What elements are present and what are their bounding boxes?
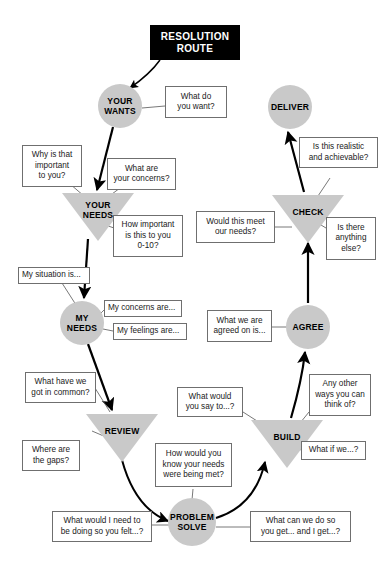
node-review-label: REVIEW: [86, 426, 158, 436]
callout-what-agreed-on[interactable]: What we are agreed on is...: [207, 310, 272, 342]
node-problem-solve[interactable]: PROBLEM SOLVE: [168, 498, 216, 546]
node-check-label: CHECK: [272, 207, 344, 217]
diagram-canvas: RESOLUTION ROUTE YOUR WANTS YOUR NEEDS M…: [0, 0, 390, 568]
node-my-needs[interactable]: MY NEEDS: [60, 301, 104, 345]
callout-any-other-ways[interactable]: Any other ways you can think of?: [309, 374, 371, 416]
callout-my-situation[interactable]: My situation is...: [18, 267, 90, 284]
node-agree-label: AGREE: [292, 322, 323, 332]
callout-realistic-achievable[interactable]: Is this realistic and achievable?: [299, 137, 378, 168]
callout-would-this-meet[interactable]: Would this meet our needs?: [196, 211, 275, 243]
node-deliver[interactable]: DELIVER: [268, 85, 312, 129]
node-deliver-label: DELIVER: [271, 102, 309, 112]
node-my-needs-label: MY NEEDS: [67, 313, 97, 333]
node-review[interactable]: REVIEW: [86, 414, 158, 462]
callout-where-are-gaps[interactable]: Where are the gaps?: [22, 440, 80, 471]
callout-my-concerns[interactable]: My concerns are...: [104, 300, 182, 317]
arrow-title-to-your-wants: [130, 60, 160, 88]
callout-anything-else[interactable]: Is there anything else?: [326, 217, 376, 260]
leader-realistic-achievable: [318, 178, 330, 196]
node-your-wants[interactable]: YOUR WANTS: [98, 84, 142, 128]
callout-what-can-we-do[interactable]: What can we do so you get... and I get..…: [250, 511, 351, 542]
node-your-needs-label: YOUR NEEDS: [62, 200, 134, 220]
callout-my-feelings[interactable]: My feelings are...: [113, 323, 187, 340]
leader-what-do-you-want: [142, 106, 165, 108]
leader-my-feelings: [103, 329, 113, 331]
triangle-shape: [86, 414, 158, 462]
node-build-label: BUILD: [251, 432, 323, 442]
node-problem-solve-label: PROBLEM SOLVE: [170, 512, 214, 532]
node-agree[interactable]: AGREE: [286, 305, 330, 349]
callout-what-are-concerns[interactable]: What are your concerns?: [107, 158, 176, 190]
callout-what-would-you-say[interactable]: What would you say to...?: [177, 387, 243, 417]
callout-what-if-we[interactable]: What if we...?: [301, 441, 366, 460]
diagram-title: RESOLUTION ROUTE: [150, 25, 240, 60]
callout-why-important[interactable]: Why is that important to you?: [22, 145, 82, 187]
callout-what-do-you-want[interactable]: What do you want?: [165, 86, 227, 118]
callout-what-would-i-need[interactable]: What would I need to be doing so you fel…: [52, 511, 152, 542]
node-your-wants-label: YOUR WANTS: [104, 96, 136, 116]
arrow-build-to-agree: [291, 352, 305, 418]
callout-how-important-0-10[interactable]: How important is this to you 0-10?: [113, 215, 183, 257]
callout-what-in-common[interactable]: What have we got in common?: [25, 372, 96, 403]
callout-how-know-needs-met[interactable]: How would you know your needs were being…: [155, 443, 232, 487]
